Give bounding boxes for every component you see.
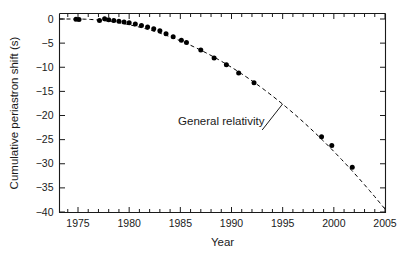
data-point: [171, 34, 176, 39]
periastron-shift-chart: 1975198019851990199520002005 0−5−10−15−2…: [0, 0, 409, 255]
data-point: [127, 20, 132, 25]
data-point: [116, 19, 121, 24]
data-point: [212, 56, 217, 61]
y-tick-label: −20: [36, 109, 54, 121]
data-point: [77, 17, 82, 22]
data-point: [164, 31, 169, 36]
x-tick-label: 1975: [66, 217, 90, 229]
data-point: [319, 134, 324, 139]
data-point: [179, 38, 184, 43]
y-tick-label: −30: [36, 157, 54, 169]
x-axis-title: Year: [211, 236, 234, 248]
chart-figure: 1975198019851990199520002005 0−5−10−15−2…: [0, 0, 409, 255]
y-tick-label: −25: [36, 133, 54, 145]
x-tick-label: 2000: [322, 217, 346, 229]
y-tick-label: −35: [36, 181, 54, 193]
data-point: [106, 17, 111, 22]
data-point: [145, 24, 150, 29]
y-tick-label: −5: [42, 37, 54, 49]
data-point: [350, 165, 355, 170]
data-point: [111, 18, 116, 23]
data-point: [184, 40, 189, 45]
data-point: [236, 71, 241, 76]
x-tick-label: 1980: [117, 217, 141, 229]
data-point: [198, 48, 203, 53]
data-point: [329, 143, 334, 148]
data-point: [252, 80, 257, 85]
data-point: [133, 22, 138, 27]
chart-background: [0, 0, 409, 255]
x-tick-label: 1990: [220, 217, 244, 229]
data-point: [157, 28, 162, 33]
data-point: [151, 26, 156, 31]
x-tick-label: 1995: [271, 217, 295, 229]
data-point: [224, 62, 229, 67]
y-axis-title: Cumulative periastron shift (s): [8, 36, 20, 189]
data-point: [122, 19, 127, 24]
x-tick-label: 1985: [169, 217, 193, 229]
y-tick-label: −40: [36, 206, 54, 218]
y-tick-label: 0: [48, 13, 54, 25]
y-tick-label: −15: [36, 85, 54, 97]
annotation-general-relativity: General relativity: [178, 115, 265, 127]
y-tick-label: −10: [36, 61, 54, 73]
x-tick-label: 2005: [373, 217, 397, 229]
data-point: [139, 23, 144, 28]
data-point: [97, 18, 102, 23]
